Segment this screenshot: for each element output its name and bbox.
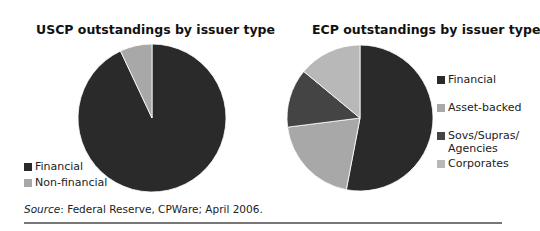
swatch-corporates [437, 160, 445, 168]
legend-item-non-financial: Non-financial [24, 176, 107, 189]
uscp-legend: Financial Non-financial [24, 160, 107, 189]
source-note: Source: Federal Reserve, CPWare; April 2… [24, 203, 263, 215]
uscp-chart-title: USCP outstandings by issuer type [36, 22, 275, 37]
ecp-chart-title: ECP outstandings by issuer type [312, 22, 540, 37]
ecp-pie-chart [280, 38, 440, 198]
legend-item-sovs-supras-agencies: Sovs/Supras/ Agencies [437, 129, 522, 155]
legend-label: Financial [35, 160, 83, 173]
bottom-divider [24, 222, 502, 224]
legend-label: Financial [448, 73, 496, 86]
legend-item-asset-backed: Asset-backed [437, 101, 522, 114]
legend-item-financial: Financial [24, 160, 107, 173]
swatch-financial [24, 163, 32, 171]
swatch-non-financial [24, 179, 32, 187]
swatch-asset-backed [437, 104, 445, 112]
legend-item-financial: Financial [437, 73, 522, 86]
legend-item-corporates: Corporates [437, 157, 522, 170]
legend-label: Corporates [448, 157, 509, 170]
legend-label: Asset-backed [448, 101, 522, 114]
ecp-legend: Financial Asset-backed Sovs/Supras/ Agen… [437, 73, 522, 170]
legend-label: Sovs/Supras/ Agencies [448, 129, 519, 155]
swatch-sovs [437, 132, 445, 140]
swatch-financial [437, 76, 445, 84]
legend-label: Non-financial [35, 176, 107, 189]
